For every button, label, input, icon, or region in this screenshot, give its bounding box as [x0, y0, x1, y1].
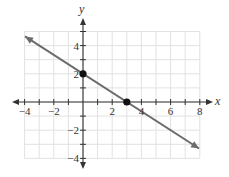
x-axis-right-arrow-icon: [206, 99, 213, 105]
y-tick-label: −4: [67, 152, 79, 164]
grid: [25, 32, 200, 159]
y-tick-label: 4: [74, 40, 80, 52]
y-axis-down-arrow-icon: [80, 162, 86, 169]
y-tick-label: −2: [67, 124, 79, 136]
y-axis-up-arrow-icon: [80, 18, 86, 25]
y-axis-label: y: [78, 2, 85, 16]
x-tick-label: 6: [168, 105, 174, 117]
x-tick-label: 8: [197, 105, 203, 117]
y-intercept-point: [79, 70, 86, 77]
y-tick-label: 2: [74, 68, 80, 80]
coordinate-plane: −4−22468−4−224 x y: [0, 0, 229, 177]
x-tick-label: −2: [48, 105, 60, 117]
x-axis-label: x: [214, 94, 221, 108]
x-intercept-point: [123, 98, 130, 105]
x-tick-label: −4: [19, 105, 31, 117]
x-tick-label: 2: [109, 105, 115, 117]
x-tick-label: 4: [139, 105, 145, 117]
